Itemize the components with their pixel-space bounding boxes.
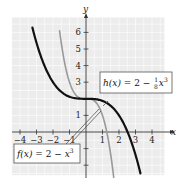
function-graph: −4−3−2−1123413456 h(x) = 2 − 18x3 f(x) =…: [0, 0, 183, 184]
x-tick-label: −4: [14, 135, 27, 145]
y-axis-label: y: [82, 4, 89, 14]
x-tick-label: 2: [116, 135, 121, 145]
x-tick-label: 3: [133, 135, 138, 145]
x-axis-label: x: [171, 127, 176, 137]
h-label-text: h(x) = 2 − 18x3: [103, 76, 168, 90]
y-tick-label: 1: [76, 110, 81, 120]
f-label-text: f(x) = 2 − x3: [16, 147, 74, 159]
x-tick-label: 1: [100, 135, 105, 145]
x-tick-label: −3: [30, 135, 43, 145]
y-tick-label: 6: [76, 27, 81, 37]
y-tick-label: 4: [76, 61, 81, 71]
x-tick-label: −2: [47, 135, 60, 145]
y-tick-label: 5: [76, 44, 81, 54]
x-tick-label: 4: [149, 135, 154, 145]
y-tick-label: 3: [76, 77, 81, 87]
